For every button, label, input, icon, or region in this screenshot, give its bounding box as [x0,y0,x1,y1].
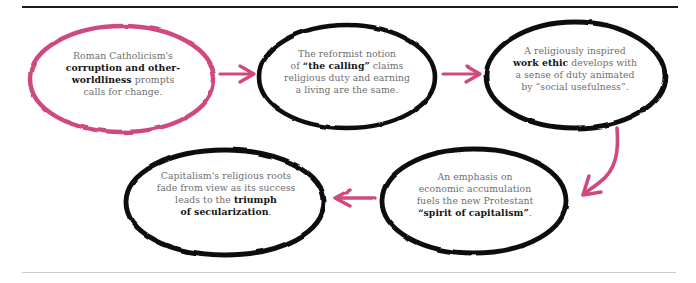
arrow-node3-to-node4 [583,128,618,195]
node-text-run: Roman Catholicism's [73,50,173,61]
node-text-line: a sense of duty animated [494,69,656,81]
node-text-line: fuels the new Protestant [392,195,558,207]
diagram-canvas: Roman Catholicism'scorruption and other-… [0,0,696,283]
node-text-emphasis: worldliness [72,74,132,85]
flowchart-artwork [0,0,696,283]
arrow-node2-to-node3 [443,66,480,82]
node-5-text: Capitalism's religious rootsfade from vi… [136,170,316,218]
node-text-line: a living are the same. [268,84,426,96]
node-text-line: calls for change. [38,86,208,98]
node-text-run: economic accumulation [419,183,531,194]
node-text-run: An emphasis on [437,171,512,182]
node-text-line: A religiously inspired [494,45,656,57]
arrow-node4-to-node5 [335,190,375,206]
node-text-run: leads to the [175,194,234,205]
node-text-run: a sense of duty animated [515,69,634,80]
node-text-run: calls for change. [84,86,163,97]
node-text-run: of [291,60,303,71]
node-text-emphasis: corruption and other- [66,62,180,73]
node-text-emphasis: triumph [234,194,277,205]
node-text-line: corruption and other- [38,62,208,74]
node-text-run: a living are the same. [296,84,399,95]
node-text-emphasis: “the calling” [303,60,370,71]
node-text-run: A religiously inspired [524,45,626,56]
node-4-text: An emphasis oneconomic accumulationfuels… [392,171,558,219]
node-text-line: An emphasis on [392,171,558,183]
node-text-emphasis: “spirit of capitalism” [418,207,529,218]
node-text-line: Roman Catholicism's [38,50,208,62]
node-text-run: fade from view as its success [157,182,296,193]
node-text-run: religious duty and earning [284,72,410,83]
node-text-line: of “the calling” claims [268,60,426,72]
node-text-run: The reformist notion [298,48,396,59]
node-text-line: by “social usefulness”. [494,81,656,93]
node-text-run: develops with [568,57,637,68]
node-text-run: by “social usefulness”. [521,81,628,92]
arrow-node1-to-node2 [220,66,254,82]
node-text-run: . [268,206,271,217]
node-3-text: A religiously inspiredwork ethic develop… [494,45,656,93]
node-text-emphasis: of secularization [181,206,269,217]
node-text-run: fuels the new Protestant [417,195,534,206]
node-text-line: economic accumulation [392,183,558,195]
node-text-line: leads to the triumph [136,194,316,206]
node-text-line: worldliness prompts [38,74,208,86]
node-text-run: . [529,207,532,218]
node-text-line: fade from view as its success [136,182,316,194]
node-text-run: Capitalism's religious roots [161,170,291,181]
node-1-text: Roman Catholicism'scorruption and other-… [38,50,208,98]
node-text-run: prompts [132,74,175,85]
node-text-line: The reformist notion [268,48,426,60]
node-text-run: claims [370,60,404,71]
node-text-emphasis: work ethic [513,57,568,68]
node-text-line: religious duty and earning [268,72,426,84]
node-2-text: The reformist notionof “the calling” cla… [268,48,426,96]
node-text-line: work ethic develops with [494,57,656,69]
node-text-line: Capitalism's religious roots [136,170,316,182]
node-text-line: of secularization. [136,206,316,218]
node-text-line: “spirit of capitalism”. [392,207,558,219]
